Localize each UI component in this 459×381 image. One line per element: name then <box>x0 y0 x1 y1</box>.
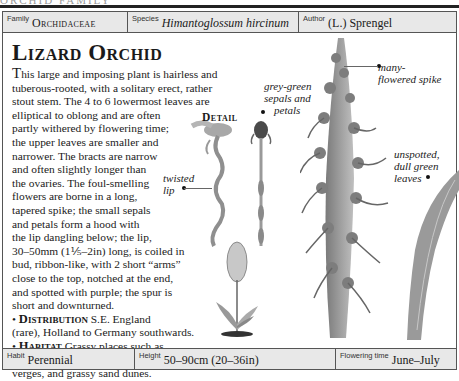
flowering-cell: Flowering time June–July <box>336 349 456 369</box>
flowering-value: June–July <box>392 353 440 367</box>
description-line: short and downturned. <box>12 299 217 313</box>
author-label: Author <box>303 14 325 23</box>
height-label: Height <box>139 351 161 360</box>
species-label: Species <box>132 14 159 23</box>
bottom-info-bar: Habit Perennial Height 50–90cm (20–36in)… <box>2 348 457 370</box>
sepals-annotation: grey-green sepals and petals <box>264 80 311 116</box>
description-line: the lip dangling below; the lip, <box>12 231 217 245</box>
spike-annotation: many- flowered spike <box>378 61 441 85</box>
habit-label: Habit <box>7 351 25 360</box>
distribution-line: • Distribution S.E. England <box>12 313 217 327</box>
description-line: bud, ribbon-like, with 2 short “arms” <box>12 258 217 272</box>
description-line: tapered spike; the small sepals <box>12 204 217 218</box>
species-value: Himantoglossum hircinum <box>162 16 289 30</box>
whole-plant-illustration <box>212 240 262 340</box>
description-line: tuberous-rooted, with a solitary erect, … <box>12 82 217 96</box>
description-line: elliptical to oblong and are often <box>12 109 217 123</box>
lip-annotation: twisted lip <box>163 172 194 196</box>
detail-flower-side-illustration <box>188 118 248 248</box>
leader-dot <box>261 110 265 114</box>
height-cell: Height 50–90cm (20–36in) <box>135 349 336 369</box>
detail-flower-front-illustration <box>246 118 276 248</box>
page-header-cut: ORCHID FAMILY <box>0 0 459 4</box>
species-cell: Species Himantoglossum hircinum <box>128 12 299 32</box>
description-line: narrower. The bracts are narrow <box>12 150 217 164</box>
detail-label: Detail <box>202 111 238 123</box>
family-cell: Family Orchidaceae <box>3 12 128 32</box>
page-title: Lizard Orchid <box>12 40 162 66</box>
leader-line <box>184 188 212 189</box>
description-line: close to the top, notched at the end, <box>12 272 217 286</box>
leaves-annotation: unspotted, dull green leaves <box>394 148 440 184</box>
flowering-label: Flowering time <box>340 351 389 360</box>
description-line: stout stem. The 4 to 6 lowermost leaves … <box>12 95 217 109</box>
habit-value: Perennial <box>28 353 73 367</box>
description-line: partly withered by flowering time; <box>12 122 217 136</box>
description-line: This large and imposing plant is hairles… <box>12 67 217 82</box>
author-value: (L.) Sprengel <box>328 16 392 30</box>
description-line: and spotted with purple; the spur is <box>12 286 217 300</box>
top-info-bar: Family Orchidaceae Species Himantoglossu… <box>2 11 457 33</box>
main-flower-spike-illustration <box>300 38 390 338</box>
distribution-heading: Distribution <box>19 312 88 326</box>
distribution-line: (rare), Holland to Germany southwards. <box>12 326 217 340</box>
bullet-icon: • <box>12 313 16 325</box>
description-block: This large and imposing plant is hairles… <box>12 67 217 381</box>
height-value: 50–90cm (20–36in) <box>164 353 259 367</box>
leader-line <box>344 66 378 67</box>
family-label: Family <box>7 14 29 23</box>
description-line: the upper leaves are smaller and <box>12 136 217 150</box>
habit-cell: Habit Perennial <box>3 349 135 369</box>
author-cell: Author (L.) Sprengel <box>299 12 456 32</box>
family-value: Orchidaceae <box>32 16 96 30</box>
description-line: 30–50mm (1⅕–2in) long, is coiled in <box>12 245 217 259</box>
leader-dot <box>426 175 430 179</box>
leaf-illustration <box>395 170 459 340</box>
header-rule <box>0 5 459 8</box>
description-line: and petals form a hood with <box>12 218 217 232</box>
dropcap: T <box>12 65 21 81</box>
